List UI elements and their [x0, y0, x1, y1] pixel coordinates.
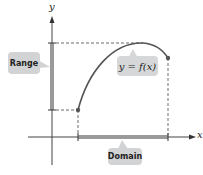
curve-end-point — [166, 56, 170, 60]
curve-start-point — [76, 108, 80, 112]
domain-callout: Domain — [108, 148, 142, 165]
function-curve — [78, 43, 168, 110]
y-axis-label: y — [49, 1, 55, 12]
x-axis-arrow-icon — [189, 135, 196, 140]
function-label: y = f(x) — [117, 56, 158, 76]
domain-bar — [78, 135, 168, 139]
range-bar — [50, 43, 54, 110]
y-axis-arrow-icon — [50, 16, 55, 23]
x-axis-label: x — [197, 129, 203, 140]
range-callout: Range — [8, 52, 40, 74]
diagram-canvas — [0, 0, 203, 175]
